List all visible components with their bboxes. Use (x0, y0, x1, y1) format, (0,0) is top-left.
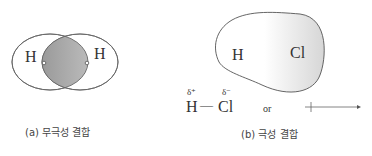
or-label: or (263, 103, 271, 114)
partial-negative-charge: δ⁻ (222, 87, 231, 97)
left-nucleus-icon (42, 61, 46, 65)
atom-label-h-left: H (25, 48, 37, 66)
partial-positive-charge: δ⁺ (187, 87, 196, 97)
formula-bond: — (200, 97, 213, 113)
formula-h: H (186, 98, 198, 116)
formula-cl: Cl (218, 98, 233, 116)
right-nucleus-icon (85, 61, 89, 65)
atom-label-h-right: H (94, 45, 106, 63)
atom-label-cl: Cl (290, 44, 305, 62)
atom-label-h: H (232, 46, 244, 64)
caption-nonpolar-bond: (a) 무극성 결합 (25, 124, 90, 139)
dipole-arrow-head-icon (357, 105, 361, 109)
caption-polar-bond: (b) 극성 결합 (241, 126, 298, 141)
